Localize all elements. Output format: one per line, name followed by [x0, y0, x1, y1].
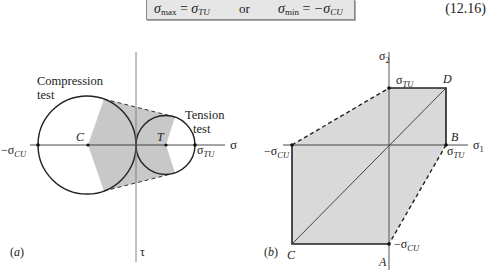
sigma2-axis-label: σ2: [379, 49, 390, 65]
sigma-axis-label: σ: [230, 137, 237, 152]
diagram-canvas: Compression test Tension test C T σ τ −σ…: [0, 0, 491, 273]
tension-label: Tension: [185, 108, 225, 122]
tension-label-test: test: [193, 122, 211, 136]
top-sigma-tu-label: σTU: [396, 73, 414, 89]
sigma1-axis-label: σ1: [473, 138, 484, 154]
corner-d-label: D: [442, 72, 452, 86]
corner-a-label: A: [378, 255, 387, 269]
bottom-minus-sigma-cu-label: −σCU: [394, 237, 420, 253]
corner-c-label: C: [287, 248, 296, 262]
point-a: [387, 242, 391, 246]
tau-axis-label: τ: [140, 245, 145, 259]
panel-b-label: (b): [264, 245, 278, 259]
left-minus-sigma-cu-label: −σCU: [264, 144, 290, 160]
point-top-sigma-tu: [387, 86, 391, 90]
point-t: [164, 143, 167, 146]
minus-sigma-cu-label: −σCU: [1, 143, 27, 159]
point-minus-sigma-cu: [36, 143, 40, 147]
center-c-label: C: [76, 130, 85, 144]
corner-b-label: B: [451, 130, 459, 144]
panel-b: σ2 σ1 σTU D B σTU −σCU −σCU C A (b): [264, 49, 484, 270]
panel-a-label: (a): [10, 245, 24, 259]
point-left-minus-sigma-cu: [290, 143, 294, 147]
point-c: [86, 143, 89, 146]
right-sigma-tu-label: σTU: [447, 144, 465, 160]
compression-label-test: test: [37, 88, 55, 102]
panel-a: Compression test Tension test C T σ τ −σ…: [1, 52, 237, 262]
compression-label: Compression: [37, 74, 104, 88]
